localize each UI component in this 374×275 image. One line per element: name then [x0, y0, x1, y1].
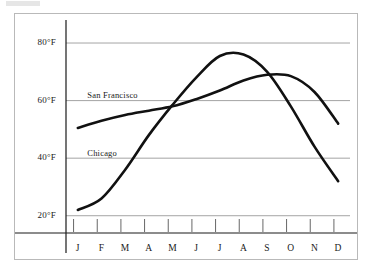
x-axis-label-september: S — [256, 243, 278, 253]
y-axis-label-80: 80°F — [22, 37, 56, 47]
x-axis-label-november: N — [304, 243, 326, 253]
x-axis-label-august: A — [233, 243, 255, 253]
x-axis-label-april: A — [138, 243, 160, 253]
scan-artifact — [6, 1, 40, 6]
x-axis-label-january: J — [67, 243, 89, 253]
chart-figure: 20°F40°F60°F80°F JFMAMJJASOND San Franci… — [0, 0, 374, 275]
y-axis-label-20: 20°F — [22, 210, 56, 220]
x-axis-label-may: M — [162, 243, 184, 253]
x-axis-label-june: J — [185, 243, 207, 253]
y-axis-label-60: 60°F — [22, 95, 56, 105]
y-axis-label-40: 40°F — [22, 152, 56, 162]
series-annotation-san-francisco: San Francisco — [87, 90, 138, 100]
figure-frame — [14, 13, 358, 260]
x-axis-label-october: O — [280, 243, 302, 253]
x-axis-label-december: D — [327, 243, 349, 253]
series-annotation-chicago: Chicago — [87, 148, 117, 158]
x-axis-label-march: M — [114, 243, 136, 253]
x-axis-label-february: F — [91, 243, 113, 253]
x-axis-label-july: J — [209, 243, 231, 253]
